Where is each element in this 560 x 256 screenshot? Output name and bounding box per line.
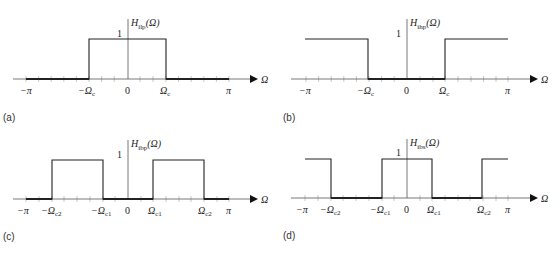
tick-zero: 0 — [125, 85, 130, 96]
panel-bandpass: Hibp(Ω) 1 Ω −π −Ωc2 −Ωc1 0 Ωc1 Ωc2 π (c) — [0, 128, 280, 256]
bandpass-plot: Hibp(Ω) 1 Ω −π −Ωc2 −Ωc1 0 Ωc1 Ωc2 π (c) — [0, 128, 280, 256]
bandstop-plot: Hibs(Ω) 1 Ω −π −Ωc2 −Ωc1 0 Ωc1 Ωc2 π (d) — [280, 128, 560, 256]
tick-neg-pi: −π — [296, 204, 309, 215]
tick-zero: 0 — [404, 204, 409, 215]
y-tick-one: 1 — [117, 149, 122, 160]
tick-omega-c: Ωc — [439, 85, 449, 98]
panel-label: (d) — [283, 230, 295, 241]
highpass-plot: Hihp(Ω) 1 Ω −π −Ωc 0 Ωc π (b) — [280, 0, 560, 128]
y-tick-one: 1 — [117, 28, 122, 39]
response-curve — [26, 39, 229, 79]
tick-pi: π — [226, 85, 232, 96]
tick-neg-omega-c1: −Ωc1 — [370, 204, 391, 217]
tick-neg-pi: −π — [20, 85, 33, 96]
function-label: Hihp(Ω) — [409, 17, 441, 31]
x-axis-arrow-icon — [250, 195, 258, 203]
response-curve — [26, 160, 229, 199]
function-label: Hibs(Ω) — [409, 137, 440, 151]
tick-neg-omega-c1: −Ωc1 — [91, 205, 112, 218]
x-axis-label: Ω — [541, 193, 548, 204]
response-curve — [305, 39, 508, 79]
tick-pi: π — [505, 85, 511, 96]
x-axis-arrow-icon — [530, 75, 538, 83]
panel-label: (a) — [3, 112, 15, 123]
tick-neg-omega-c: −Ωc — [78, 85, 95, 98]
tick-neg-pi: −π — [17, 205, 30, 216]
tick-omega-c2: Ωc2 — [198, 205, 212, 218]
tick-omega-c1: Ωc1 — [427, 204, 441, 217]
tick-neg-omega-c: −Ωc — [357, 85, 374, 98]
x-axis-arrow-icon — [530, 194, 538, 202]
tick-zero: 0 — [125, 205, 130, 216]
y-tick-one: 1 — [396, 147, 401, 158]
lowpass-plot: Hilp(Ω) 1 Ω −π −Ωc 0 Ωc π (a) — [0, 0, 280, 128]
panel-label: (b) — [283, 112, 295, 123]
tick-pi: π — [226, 205, 232, 216]
tick-neg-omega-c2: −Ωc2 — [41, 205, 62, 218]
panel-bandstop: Hibs(Ω) 1 Ω −π −Ωc2 −Ωc1 0 Ωc1 Ωc2 π (d) — [280, 128, 560, 256]
response-curve — [305, 159, 508, 198]
function-label: Hibp(Ω) — [130, 138, 162, 152]
tick-omega-c1: Ωc1 — [148, 205, 162, 218]
panel-highpass: Hihp(Ω) 1 Ω −π −Ωc 0 Ωc π (b) — [280, 0, 560, 128]
tick-pi: π — [505, 204, 511, 215]
x-axis-label: Ω — [541, 74, 548, 85]
y-tick-one: 1 — [396, 28, 401, 39]
x-axis-label: Ω — [261, 74, 268, 85]
tick-neg-omega-c2: −Ωc2 — [320, 204, 341, 217]
tick-omega-c: Ωc — [160, 85, 170, 98]
x-axis-arrow-icon — [250, 75, 258, 83]
panel-label: (c) — [3, 231, 15, 242]
tick-zero: 0 — [404, 85, 409, 96]
tick-omega-c2: Ωc2 — [477, 204, 491, 217]
function-label: Hilp(Ω) — [130, 17, 160, 31]
x-axis-label: Ω — [261, 194, 268, 205]
tick-neg-pi: −π — [299, 85, 312, 96]
panel-lowpass: Hilp(Ω) 1 Ω −π −Ωc 0 Ωc π (a) — [0, 0, 280, 128]
